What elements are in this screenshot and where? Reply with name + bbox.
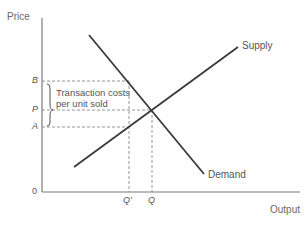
origin-label: 0: [32, 187, 37, 196]
price-label-a: A: [32, 122, 38, 131]
quantity-label-q: Q: [148, 196, 155, 205]
x-axis-label: Output: [270, 205, 300, 215]
supply-label: Supply: [242, 41, 273, 51]
supply-demand-diagram: [0, 0, 308, 225]
transaction-cost-annotation: Transaction costs per unit sold: [56, 87, 130, 109]
annotation-line-1: Transaction costs: [56, 87, 130, 98]
y-axis-label: Price: [7, 12, 30, 22]
quantity-label-qprime: Q': [123, 196, 132, 205]
price-label-p: P: [32, 105, 38, 114]
annotation-line-2: per unit sold: [56, 98, 130, 109]
transaction-cost-brace: [47, 84, 53, 126]
price-label-b: B: [32, 76, 38, 85]
demand-label: Demand: [208, 170, 246, 180]
